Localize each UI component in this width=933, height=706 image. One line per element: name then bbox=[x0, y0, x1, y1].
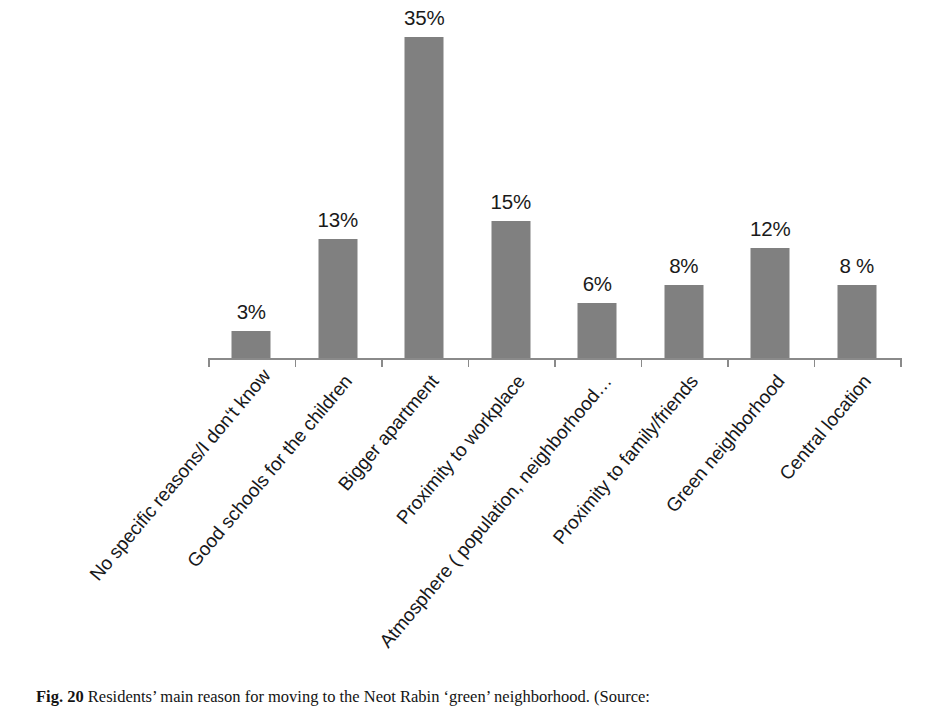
bar-value-label: 13% bbox=[318, 208, 358, 232]
bar-group: 3% bbox=[208, 10, 295, 358]
bar-value-label: 15% bbox=[491, 190, 531, 214]
bar-value-label: 12% bbox=[750, 217, 790, 241]
bar[interactable] bbox=[318, 239, 357, 358]
bar-chart-plot-area: 3%13%35%15%6%8%12%8 % bbox=[208, 10, 900, 358]
bar-group: 8 % bbox=[814, 10, 901, 358]
figure-container: 3%13%35%15%6%8%12%8 % No specific reason… bbox=[0, 0, 933, 706]
x-axis-tick bbox=[295, 358, 297, 367]
x-axis-tick bbox=[900, 358, 902, 367]
bar[interactable] bbox=[664, 285, 703, 358]
bar-value-label: 8% bbox=[669, 254, 698, 278]
figure-caption: Fig. 20 Residents’ main reason for movin… bbox=[36, 687, 916, 706]
bar-group: 12% bbox=[727, 10, 814, 358]
bar[interactable] bbox=[751, 248, 790, 358]
x-axis-tick bbox=[727, 358, 729, 367]
x-axis-tick bbox=[208, 358, 210, 367]
figure-number: Fig. 20 bbox=[36, 687, 84, 706]
category-label: No specific reasons/I don‘t know bbox=[86, 371, 269, 584]
bar-group: 35% bbox=[381, 10, 468, 358]
bar[interactable] bbox=[837, 285, 876, 358]
bar-value-label: 6% bbox=[583, 272, 612, 296]
bar-group: 6% bbox=[554, 10, 641, 358]
bar-value-label: 3% bbox=[237, 300, 266, 324]
bar-group: 15% bbox=[468, 10, 555, 358]
bar[interactable] bbox=[491, 221, 530, 358]
x-axis-tick bbox=[641, 358, 643, 367]
bar-value-label: 35% bbox=[404, 6, 444, 30]
bar[interactable] bbox=[405, 37, 444, 358]
x-axis-tick bbox=[814, 358, 816, 367]
category-label: Green neighborhood bbox=[272, 371, 788, 706]
bar[interactable] bbox=[578, 303, 617, 358]
bar-group: 13% bbox=[295, 10, 382, 358]
x-axis-tick bbox=[381, 358, 383, 367]
bar-value-label: 8 % bbox=[839, 254, 874, 278]
figure-caption-text: Residents’ main reason for moving to the… bbox=[88, 687, 650, 706]
x-axis-tick bbox=[468, 358, 470, 367]
x-axis-tick bbox=[554, 358, 556, 367]
bar[interactable] bbox=[232, 331, 271, 358]
bar-group: 8% bbox=[641, 10, 728, 358]
